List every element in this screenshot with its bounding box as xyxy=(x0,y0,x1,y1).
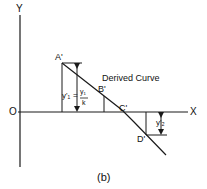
fraction-denominator: k xyxy=(82,99,86,106)
equals-sign: = xyxy=(73,92,78,100)
figure-caption: (b) xyxy=(97,172,110,183)
origin-label: O xyxy=(9,107,17,117)
y1-prime-label: y'₁ xyxy=(62,92,70,100)
fraction-numerator: y₁ xyxy=(80,88,86,95)
y2-prime-label: y'₂ xyxy=(156,119,165,127)
derived-curve-diagram xyxy=(0,0,207,189)
point-d-prime-label: D' xyxy=(137,135,145,144)
point-b-prime-label: B' xyxy=(98,85,106,94)
derived-curve-label: Derived Curve xyxy=(102,74,160,83)
point-c-prime-label: C' xyxy=(119,104,127,113)
point-a-prime-label: A' xyxy=(55,53,63,62)
x-axis-label: X xyxy=(190,107,197,117)
y-axis-label: Y xyxy=(16,4,23,14)
